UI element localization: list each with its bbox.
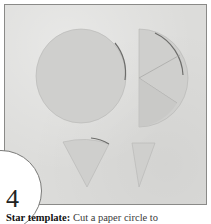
caption-text: Cut a paper circle to	[70, 212, 158, 223]
step-number: 4	[6, 186, 19, 212]
full-paper-circle	[36, 29, 126, 123]
narrow-wedge-piece	[132, 143, 155, 187]
caption-label: Star template:	[6, 212, 70, 223]
step-caption: Star template: Cut a paper circle to	[6, 211, 158, 224]
wide-wedge-piece	[63, 139, 109, 187]
